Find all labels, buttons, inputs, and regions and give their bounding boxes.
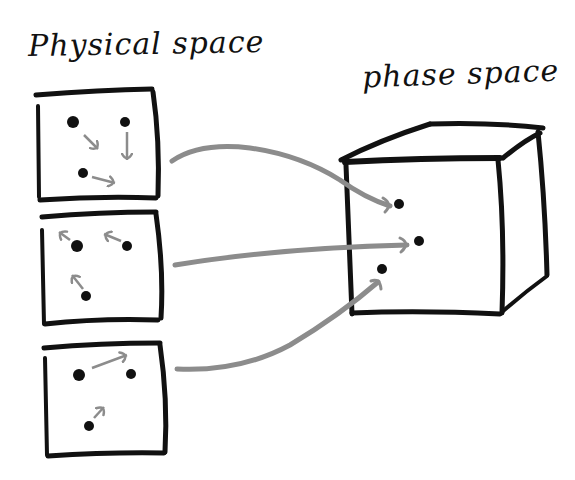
velocity-arrow — [72, 275, 83, 289]
physical-box-3 — [44, 343, 166, 456]
diagram-drawing — [0, 0, 575, 480]
particle — [67, 116, 79, 128]
physical-box-2 — [42, 212, 162, 324]
particle — [78, 168, 88, 178]
mapping-arrow-2 — [175, 245, 407, 265]
mapping-arrow-1 — [172, 147, 390, 206]
phase-point-3 — [377, 264, 387, 274]
phase-point-2 — [414, 236, 424, 246]
phase-point-1 — [394, 199, 404, 209]
velocity-arrow — [92, 355, 127, 368]
particle — [84, 421, 94, 431]
particle — [122, 241, 132, 251]
particle — [126, 369, 136, 379]
velocity-arrow — [104, 234, 121, 241]
velocity-arrow — [94, 407, 104, 418]
particle — [73, 369, 85, 381]
mapping-arrow-3 — [177, 282, 378, 369]
particle — [120, 117, 130, 127]
particle — [81, 291, 91, 301]
particle — [71, 240, 83, 252]
velocity-arrow — [84, 135, 98, 149]
diagram-canvas: Physical space phase space — [0, 0, 575, 480]
velocity-arrow — [92, 177, 115, 183]
physical-box-1 — [36, 89, 158, 200]
velocity-arrow — [59, 232, 70, 240]
